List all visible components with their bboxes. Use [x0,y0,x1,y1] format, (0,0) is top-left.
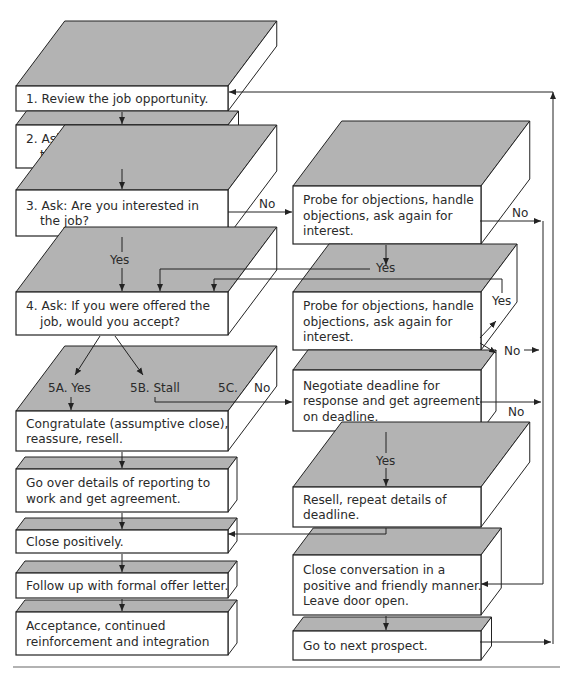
box-top-face [293,244,517,292]
edge-label-step3-yes: Yes [109,253,129,267]
box-label-line: Close conversation in a [303,563,445,577]
box-label-line: Resell, repeat details of [303,493,447,507]
box-top-face [293,350,496,370]
box-top-face [16,518,237,530]
box-label-line: interest. [303,224,354,238]
box-label-line: Go over details of reporting to [26,476,210,490]
edge-label-option-5a: 5A. Yes [48,381,91,395]
flow-box-negotiate: Negotiate deadline forresponse and get a… [293,350,496,431]
edge-label-probe1-yes: Yes [375,261,395,275]
flow-box-step-9: Acceptance, continuedreinforcement and i… [16,600,237,655]
box-top-face [16,111,239,125]
box-label-line: reinforcement and integration [26,635,210,649]
box-label-line: the job? [40,214,89,228]
box-top-face [293,528,501,555]
flow-box-close-conversation: Close conversation in apositive and frie… [293,528,501,615]
box-label-line: Leave door open. [303,594,409,608]
flow-box-step-3: 3. Ask: Are you interested inthe job? [16,125,277,236]
box-label-line: interest. [303,330,354,344]
edge-label-negotiate-no: No [508,405,524,419]
edge-label-probe1-no: No [512,206,528,220]
box-label-line: Follow up with formal offer letter. [26,579,228,593]
box-label-line: Acceptance, continued [26,619,165,633]
box-label-line: objections, ask again for [303,315,453,329]
box-label-line: Probe for objections, handle [303,299,474,313]
edge-label-option-5c: 5C. [218,381,238,395]
flow-box-probe-1: Probe for objections, handleobjections, … [293,121,530,244]
box-label-line: response and get agreement [303,394,480,408]
flow-box-resell: Resell, repeat details ofdeadline. [293,422,530,527]
box-top-face [16,457,237,469]
flow-box-step-1: 1. Review the job opportunity. [16,21,277,111]
edge-label-probe2-no: No [504,344,520,358]
box-label-line: Probe for objections, handle [303,193,474,207]
sales-close-flowchart: 1. Review the job opportunity.2. Ask for… [0,0,571,676]
box-label-line: 4. Ask: If you were offered the [26,299,210,313]
edge-label-probe2-yes: Yes [491,294,511,308]
edge-label-negotiate-yes: Yes [375,454,395,468]
box-label-line: Negotiate deadline for [303,379,441,393]
flow-box-step-5a: Congratulate (assumptive close),reassure… [16,346,277,451]
box-label-line: positive and friendly manner. [303,579,482,593]
box-label-line: job, would you accept? [39,315,180,329]
edge-label-option-5c-no: No [254,381,270,395]
box-top-face [16,561,237,573]
flow-box-step-6: Go over details of reporting towork and … [16,457,237,512]
edge-label-option-5b: 5B. Stall [130,381,180,395]
box-label-line: objections, ask again for [303,209,453,223]
edge-label-step3-no: No [259,197,275,211]
box-label-line: Go to next prospect. [303,639,428,653]
flow-box-step-8: Follow up with formal offer letter. [16,561,237,598]
box-label-line: deadline. [303,508,359,522]
flowchart-boxes: 1. Review the job opportunity.2. Ask for… [16,21,530,660]
box-label-line: work and get agreement. [26,492,181,506]
box-label-line: 1. Review the job opportunity. [26,92,208,106]
box-label-line: 3. Ask: Are you interested in [26,199,199,213]
flow-box-step-7: Close positively. [16,518,237,553]
flow-box-next-prospect: Go to next prospect. [293,617,492,660]
box-label-line: on deadline. [303,410,378,424]
box-top-face [16,600,237,612]
flow-box-step-4: 4. Ask: If you were offered thejob, woul… [16,227,277,335]
box-label-line: reassure, resell. [26,432,123,446]
box-label-line: Close positively. [26,535,124,549]
box-label-line: Congratulate (assumptive close), [26,417,228,431]
box-top-face [293,617,492,631]
